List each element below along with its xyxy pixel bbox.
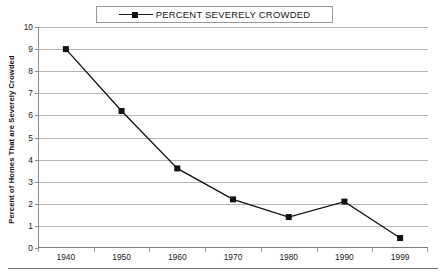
x-tick-mark-1 [94,248,95,252]
data-point-1960 [174,165,180,171]
data-point-1970 [230,196,236,202]
x-tick-mark-6 [372,248,373,252]
x-tick-label-1950: 1950 [112,252,131,262]
y-tick-label-7: 7 [28,88,33,98]
y-tick-label-1: 1 [28,221,33,231]
x-tick-mark-5 [317,248,318,252]
y-tick-label-2: 2 [28,199,33,209]
data-point-1999 [397,235,403,241]
y-tick-label-4: 4 [28,155,33,165]
y-tick-label-3: 3 [28,177,33,187]
legend-label-percent-severely-crowded: PERCENT SEVERELY CROWDED [153,9,311,20]
y-axis-title-text: Percent of Homes That are Severely Crowd… [7,55,16,223]
x-tick-label-1970: 1970 [224,252,243,262]
x-tick-mark-4 [261,248,262,252]
x-tick-label-1960: 1960 [168,252,187,262]
y-tick-label-0: 0 [28,243,33,253]
x-tick-label-1999: 1999 [391,252,410,262]
data-point-1950 [119,108,125,114]
x-tick-mark-end [427,248,428,252]
y-tick-label-6: 6 [28,110,33,120]
series-line-0 [66,49,400,238]
x-tick-label-1980: 1980 [279,252,298,262]
x-tick-mark-2 [149,248,150,252]
y-tick-label-10: 10 [24,22,33,32]
data-point-1940 [63,46,69,52]
x-tick-label-1940: 1940 [57,252,76,262]
y-axis-title: Percent of Homes That are Severely Crowd… [4,46,18,232]
chart-legend: PERCENT SEVERELY CROWDED [96,6,333,23]
x-tick-label-1990: 1990 [335,252,354,262]
x-tick-mark-0 [38,248,39,252]
y-tick-label-8: 8 [28,66,33,76]
y-tick-label-9: 9 [28,44,33,54]
chart-figure: PERCENT SEVERELY CROWDED Percent of Home… [0,0,446,276]
x-tick-mark-3 [205,248,206,252]
footer-rule [8,268,438,269]
series-layer [38,27,428,248]
y-tick-label-5: 5 [28,133,33,143]
plot-area: 0123456789101940195019601970198019901999 [38,27,428,248]
legend-marker-icon [119,10,153,20]
data-point-1980 [286,214,292,220]
data-point-1990 [341,199,347,205]
